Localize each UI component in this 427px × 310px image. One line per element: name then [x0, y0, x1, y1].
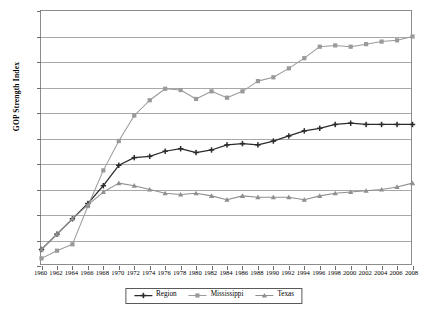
legend-label: Mississippi	[211, 291, 244, 299]
series-texas	[39, 181, 415, 252]
x-axis-tick	[150, 266, 151, 270]
data-point-marker	[117, 139, 121, 143]
x-axis-tick	[134, 266, 135, 270]
x-axis-tick	[103, 266, 104, 270]
x-axis-tick	[382, 266, 383, 270]
data-point-marker	[379, 40, 383, 44]
x-axis-tick	[304, 266, 305, 270]
data-point-marker	[395, 38, 399, 42]
legend-label: Texas	[277, 291, 294, 299]
data-point-marker	[410, 34, 414, 38]
x-axis-tick	[119, 266, 120, 270]
x-axis-tick	[57, 266, 58, 270]
data-point-marker	[318, 45, 322, 49]
data-point-marker	[179, 88, 183, 92]
data-point-marker	[348, 121, 353, 126]
data-point-marker	[132, 155, 137, 160]
data-point-marker	[240, 141, 245, 146]
x-axis-tick	[273, 266, 274, 270]
legend-marker-triangle-icon	[254, 291, 274, 300]
data-point-marker	[55, 249, 59, 253]
data-point-marker	[349, 45, 353, 49]
x-axis-tick	[196, 266, 197, 270]
data-point-marker	[70, 242, 74, 246]
x-axis-tick-label: 2008	[392, 270, 427, 277]
legend-marker-square-icon	[188, 291, 208, 300]
data-point-marker	[271, 138, 276, 143]
data-point-marker	[39, 256, 43, 260]
x-axis-tick	[397, 266, 398, 270]
data-point-marker	[287, 66, 291, 70]
data-point-marker	[194, 97, 198, 101]
x-axis-tick	[42, 266, 43, 270]
data-point-marker	[178, 146, 183, 151]
legend-marker-plus-icon	[133, 291, 153, 300]
data-point-marker	[410, 122, 415, 127]
data-point-marker	[101, 189, 106, 194]
y-axis-title: GOP Strength Index	[12, 37, 21, 157]
data-point-marker	[271, 75, 275, 79]
data-point-marker	[147, 154, 152, 159]
data-point-marker	[193, 150, 198, 155]
series-region	[39, 121, 415, 253]
legend-item-texas[interactable]: Texas	[254, 291, 294, 300]
x-axis-tick	[227, 266, 228, 270]
data-point-marker	[302, 56, 306, 60]
data-point-marker	[410, 181, 415, 186]
data-point-marker	[302, 128, 307, 133]
data-point-marker	[225, 96, 229, 100]
data-point-marker	[101, 168, 105, 172]
x-axis-tick	[88, 266, 89, 270]
data-point-marker	[132, 113, 136, 117]
data-point-marker	[255, 142, 260, 147]
plot-area	[40, 10, 412, 265]
data-point-marker	[394, 122, 399, 127]
x-axis-tick	[242, 266, 243, 270]
x-axis-tick	[258, 266, 259, 270]
data-point-marker	[256, 79, 260, 83]
x-axis-tick	[335, 266, 336, 270]
data-point-marker	[286, 133, 291, 138]
legend-item-region[interactable]: Region	[133, 291, 177, 300]
data-point-marker	[163, 87, 167, 91]
y-axis-tick	[37, 266, 41, 267]
data-point-marker	[116, 181, 121, 186]
gop-strength-index-chart: GOP Strength Index 00.020.040.060.080.10…	[0, 0, 427, 310]
x-axis-tick	[181, 266, 182, 270]
data-point-marker	[240, 89, 244, 93]
x-axis-tick	[289, 266, 290, 270]
x-axis-tick	[212, 266, 213, 270]
data-point-marker	[379, 122, 384, 127]
data-point-marker	[317, 126, 322, 131]
legend-item-mississippi[interactable]: Mississippi	[188, 291, 244, 300]
chart-legend: RegionMississippiTexas	[125, 288, 302, 304]
x-axis-tick	[413, 266, 414, 270]
data-point-marker	[209, 89, 213, 93]
data-point-marker	[224, 142, 229, 147]
data-point-marker	[363, 122, 368, 127]
data-point-marker	[333, 43, 337, 47]
data-point-marker	[162, 149, 167, 154]
data-point-marker	[148, 98, 152, 102]
x-axis-tick	[351, 266, 352, 270]
x-axis-tick	[366, 266, 367, 270]
x-axis-tick	[72, 266, 73, 270]
data-point-marker	[364, 42, 368, 46]
data-point-marker	[333, 122, 338, 127]
x-axis-tick	[165, 266, 166, 270]
series-line	[42, 123, 413, 249]
legend-label: Region	[156, 291, 177, 299]
x-axis-tick	[320, 266, 321, 270]
series-layer	[41, 11, 413, 266]
data-point-marker	[209, 147, 214, 152]
